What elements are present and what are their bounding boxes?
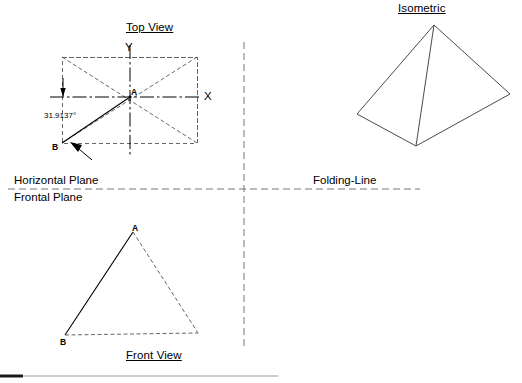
front-view-title: Front View: [126, 350, 182, 362]
isometric-pyramid-outline: [357, 25, 510, 146]
front-view-point-a-label: A: [132, 224, 138, 233]
isometric-view-title: Isometric: [398, 3, 446, 15]
top-view-y-axis-label: Y: [125, 42, 133, 54]
front-view-edge-ab: [65, 232, 133, 335]
top-view-group: [50, 45, 199, 160]
top-view-title: Top View: [126, 22, 173, 34]
folding-line-label: Folding-Line: [313, 175, 376, 187]
top-view-edge-ab: [62, 97, 130, 143]
top-view-angle-dimension: 31.9137°: [44, 112, 76, 120]
top-view-point-b-label: B: [52, 143, 58, 152]
front-view-edge-base: [65, 333, 198, 335]
top-view-point-a-label: A: [131, 88, 137, 97]
top-view-angle-arrowhead-upper: [60, 88, 65, 97]
isometric-view-group: [357, 25, 510, 146]
drawing-sheet: Top View Y X A B 31.9137° Horizontal Pla…: [0, 0, 522, 383]
front-view-group: [65, 232, 198, 335]
top-view-angle-leader-diagonal: [79, 149, 92, 160]
top-view-x-axis-label: X: [204, 91, 212, 103]
frontal-plane-label: Frontal Plane: [14, 192, 82, 204]
front-view-edge-right: [133, 232, 198, 333]
front-view-point-b-label: B: [60, 338, 66, 347]
horizontal-plane-label: Horizontal Plane: [14, 175, 98, 187]
